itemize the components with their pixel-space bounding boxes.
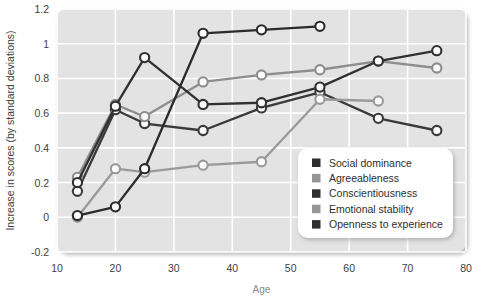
data-point-marker [73,211,82,220]
data-point-marker [73,178,82,187]
x-axis-tick-label: 40 [226,262,238,274]
data-point-marker [315,65,324,74]
data-point-marker [198,29,207,38]
legend-swatch [312,205,321,214]
data-point-marker [111,102,120,111]
y-axis-tick-label: -0.2 [31,246,49,258]
legend-label: Emotional stability [329,203,414,215]
data-point-marker [198,100,207,109]
data-point-marker [374,56,383,65]
y-axis: -0.200.20.40.60.811.2 [31,3,49,258]
legend-label: Agreeableness [329,172,399,184]
x-axis-tick-label: 60 [343,262,355,274]
y-axis-tick-label: 0.4 [34,142,49,154]
x-axis: 1020304050607080 [51,262,472,274]
y-axis-tick-label: 0 [43,211,49,223]
data-point-marker [198,161,207,170]
y-axis-tick-label: 1 [43,38,49,50]
legend-label: Conscientiousness [329,187,417,199]
data-point-marker [198,126,207,135]
data-point-marker [315,22,324,31]
data-point-marker [257,157,266,166]
legend-swatch [312,174,321,183]
y-axis-tick-label: 0.6 [34,107,49,119]
data-point-marker [432,63,441,72]
data-point-marker [257,25,266,34]
x-axis-tick-label: 10 [51,262,63,274]
data-point-marker [111,202,120,211]
data-point-marker [315,95,324,104]
data-point-marker [198,77,207,86]
data-point-marker [432,126,441,135]
data-point-marker [432,46,441,55]
data-point-marker [374,114,383,123]
y-axis-tick-label: 0.8 [34,72,49,84]
y-axis-title: Increase in scores (by standard deviatio… [4,30,16,230]
legend-label: Openness to experience [329,218,443,230]
chart-container: -0.200.20.40.60.811.21020304050607080Age… [0,0,485,298]
data-point-marker [140,164,149,173]
legend-label: Social dominance [329,157,412,169]
data-point-marker [257,70,266,79]
x-axis-tick-label: 50 [285,262,297,274]
legend-swatch [312,220,321,229]
x-axis-tick-label: 30 [168,262,180,274]
data-point-marker [257,98,266,107]
line-chart: -0.200.20.40.60.811.21020304050607080Age… [0,0,485,298]
x-axis-tick-label: 70 [402,262,414,274]
x-axis-tick-label: 80 [460,262,472,274]
x-axis-title: Age [253,284,271,295]
data-point-marker [374,96,383,105]
data-point-marker [140,53,149,62]
y-axis-tick-label: 0.2 [34,177,49,189]
legend-swatch [312,159,321,168]
data-point-marker [315,83,324,92]
legend-swatch [312,189,321,198]
x-axis-tick-label: 20 [110,262,122,274]
data-point-marker [140,112,149,121]
y-axis-tick-label: 1.2 [34,3,49,15]
legend: Social dominanceAgreeablenessConscientio… [298,148,453,238]
data-point-marker [111,164,120,173]
